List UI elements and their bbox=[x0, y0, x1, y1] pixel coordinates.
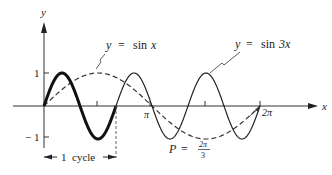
chart-canvas: y x 1 − 1 π 2π y = sin x y = sin 3x 1 cy… bbox=[0, 0, 332, 175]
x-tick-label-two-pi: 2π bbox=[262, 107, 273, 118]
y-axis-arrow-icon bbox=[41, 22, 47, 33]
x-axis-label: x bbox=[321, 100, 327, 112]
sin3x-label-eq: = bbox=[246, 37, 253, 51]
period-label-eq: = bbox=[181, 142, 188, 156]
sin3x-leader-line bbox=[210, 52, 240, 73]
sin3x-label-var: 3x bbox=[278, 37, 291, 51]
cycle-left-arrow-icon bbox=[44, 155, 52, 160]
sinx-label-fn: sin bbox=[133, 38, 147, 52]
period-label-p: P bbox=[168, 142, 177, 156]
sinx-label: y = sin x bbox=[105, 38, 157, 52]
cycle-label: 1 cycle bbox=[61, 151, 95, 163]
sin3x-label-fn: sin bbox=[261, 37, 275, 51]
sinx-leader-line bbox=[96, 54, 105, 69]
x-axis-arrow-icon bbox=[308, 103, 318, 109]
sin3x-label-y: y bbox=[234, 37, 241, 51]
sin3x-label: y = sin 3x bbox=[234, 37, 291, 51]
y-tick-label-minus-1: − 1 bbox=[25, 131, 39, 143]
period-label-numerator: 2π bbox=[199, 140, 208, 149]
cycle-label-word: cycle bbox=[72, 151, 95, 163]
x-tick-label-pi: π bbox=[144, 109, 150, 120]
sinx-label-eq: = bbox=[118, 38, 125, 52]
sinx-label-y: y bbox=[105, 38, 112, 52]
sinx-label-var: x bbox=[150, 38, 157, 52]
period-label: P = 2π 3 bbox=[168, 140, 210, 160]
cycle-label-num: 1 bbox=[61, 151, 67, 163]
y-tick-label-1: 1 bbox=[34, 67, 40, 79]
period-label-denominator: 3 bbox=[201, 151, 205, 160]
y-axis-label: y bbox=[40, 6, 46, 18]
cycle-right-arrow-icon bbox=[108, 155, 116, 160]
